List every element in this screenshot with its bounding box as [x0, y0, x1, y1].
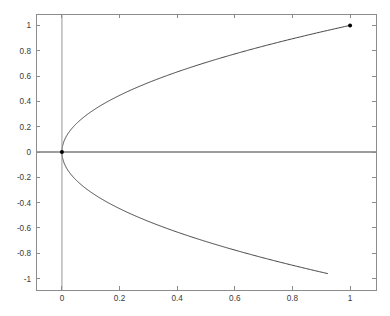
origin-marker — [60, 150, 64, 154]
y-tick-label: 0.6 — [20, 72, 32, 81]
y-tick-label: -0.2 — [17, 173, 32, 182]
y-tick-label: 0.4 — [20, 97, 32, 106]
x-tick-label: 0.2 — [114, 294, 126, 303]
x-tick-label: 1 — [348, 294, 353, 303]
x-tick-label: 0.6 — [229, 294, 241, 303]
y-tick-label: 0 — [26, 148, 31, 157]
y-tick-label: -1 — [24, 275, 32, 284]
x-tick-label: 0.4 — [171, 294, 183, 303]
y-tick-label: 0.8 — [20, 47, 32, 56]
y-tick-label: -0.8 — [17, 249, 32, 258]
y-axis-tick-labels: -1-0.8-0.6-0.4-0.200.20.40.60.81 — [17, 21, 32, 283]
x-tick-label: 0 — [60, 294, 65, 303]
y-tick-label: -0.6 — [17, 224, 32, 233]
x-tick-label: 0.8 — [287, 294, 299, 303]
endpoint-marker — [348, 23, 352, 27]
parabola-plot: 00.20.40.60.81 -1-0.8-0.6-0.4-0.200.20.4… — [0, 0, 390, 316]
x-axis-tick-labels: 00.20.40.60.81 — [60, 294, 353, 303]
figure-canvas: 00.20.40.60.81 -1-0.8-0.6-0.4-0.200.20.4… — [0, 0, 390, 316]
y-tick-label: 1 — [26, 21, 31, 30]
y-tick-label: 0.2 — [20, 123, 32, 132]
y-tick-label: -0.4 — [17, 199, 32, 208]
